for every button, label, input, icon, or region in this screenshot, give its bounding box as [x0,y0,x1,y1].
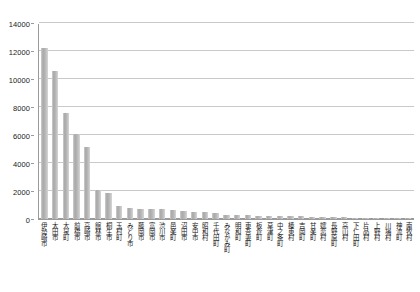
x-label-slot: 上野村 [371,222,382,290]
bar-slot [296,24,307,219]
bar[interactable] [266,216,272,219]
x-tick-label: 東吾妻町 [244,222,251,246]
x-tick-label: 高崎市 [83,222,90,240]
x-tick-label: 渋川市 [158,222,165,240]
bar[interactable] [255,216,261,220]
bar[interactable] [180,211,186,219]
x-label-slot: 沼田市 [178,222,189,290]
bar-slot [50,24,61,219]
bar[interactable] [202,212,208,219]
bar-slot [125,24,136,219]
x-tick-label: 神流町 [394,222,401,240]
x-label-slot: みどり市 [124,222,135,290]
bar[interactable] [137,209,143,219]
bar-slot [82,24,93,219]
x-label-slot: 太田市 [49,222,60,290]
bar[interactable] [234,215,240,219]
x-label-slot: 神流町 [392,222,403,290]
x-axis-labels: 伊勢崎市太田市大泉町前橋市高崎市館林市桐生市玉村町みどり市藤岡市富岡市渋川市邑楽… [38,222,414,290]
bar[interactable] [245,215,251,219]
bar-slot [349,24,360,219]
bar[interactable] [52,71,58,219]
bar[interactable] [394,218,400,219]
x-tick-label: 草津町 [265,222,272,240]
bar-slot [157,24,168,219]
bar[interactable] [159,209,165,219]
x-label-slot: 藤岡市 [135,222,146,290]
bar[interactable] [41,48,47,219]
bar-slot [317,24,328,219]
y-tick-label: 10000 [9,76,30,84]
x-tick-label: 桐生市 [104,222,111,240]
x-tick-label: 川場村 [383,222,390,240]
bar[interactable] [330,217,336,219]
x-label-slot: みなかみ町 [220,222,231,290]
bar[interactable] [116,206,122,219]
bar[interactable] [362,218,368,219]
bar[interactable] [127,208,133,219]
bar[interactable] [73,134,79,219]
bar-slot [253,24,264,219]
x-tick-label: 板倉町 [255,222,262,240]
y-tick-mark [31,79,34,80]
bar-slot [103,24,114,219]
x-label-slot: 富岡市 [145,222,156,290]
bar-slot [178,24,189,219]
x-tick-label: 下仁田町 [351,222,358,246]
bar-slot [242,24,253,219]
bar[interactable] [95,190,101,219]
bar-slot [232,24,243,219]
bar-slot [371,24,382,219]
y-tick-mark [31,163,34,164]
x-tick-label: みなかみ町 [222,222,229,252]
x-tick-label: 南牧村 [405,222,412,240]
x-label-slot: 南牧村 [403,222,414,290]
bar[interactable] [223,215,229,219]
bar[interactable] [298,216,304,219]
bar[interactable] [319,217,325,219]
bar[interactable] [384,218,390,219]
y-tick-label: 12000 [9,48,30,56]
x-tick-label: 藤岡市 [137,222,144,240]
bar-slot [403,24,414,219]
bar-slot [274,24,285,219]
x-label-slot: 草津町 [263,222,274,290]
y-tick-label: 0 [26,216,30,224]
bar[interactable] [191,212,197,219]
bar[interactable] [148,209,154,219]
x-label-slot: 甘楽町 [306,222,317,290]
x-label-slot: 邑楽町 [167,222,178,290]
x-tick-label: 太田市 [51,222,58,240]
bar[interactable] [309,217,315,219]
x-tick-label: 玉村町 [115,222,122,240]
bar[interactable] [63,113,69,219]
bar-slot [221,24,232,219]
x-tick-label: 嬬恋村 [319,222,326,240]
bar[interactable] [212,213,218,219]
x-label-slot: 片品村 [360,222,371,290]
bar[interactable] [84,147,90,219]
bar-slot [328,24,339,219]
y-tick-mark [31,23,34,24]
x-tick-label: 長野原町 [330,222,337,246]
bar[interactable] [373,218,379,219]
bar[interactable] [170,210,176,219]
x-tick-label: 伊勢崎市 [40,222,47,246]
bar[interactable] [352,218,358,219]
x-label-slot: 渋川市 [156,222,167,290]
x-label-slot: 板倉町 [253,222,264,290]
y-tick-mark [31,107,34,108]
bar[interactable] [287,216,293,219]
bar-slot [93,24,104,219]
x-label-slot: 安中市 [188,222,199,290]
bar[interactable] [277,216,283,219]
x-tick-label: 吉岡町 [298,222,305,240]
bar[interactable] [341,217,347,219]
bar[interactable] [405,218,411,219]
x-label-slot: 下仁田町 [349,222,360,290]
bar-slot [210,24,221,219]
bar-chart: 02000400060008000100001200014000 伊勢崎市太田市… [0,0,420,292]
bar-slot [285,24,296,219]
bar[interactable] [105,193,111,219]
y-tick-mark [31,191,34,192]
